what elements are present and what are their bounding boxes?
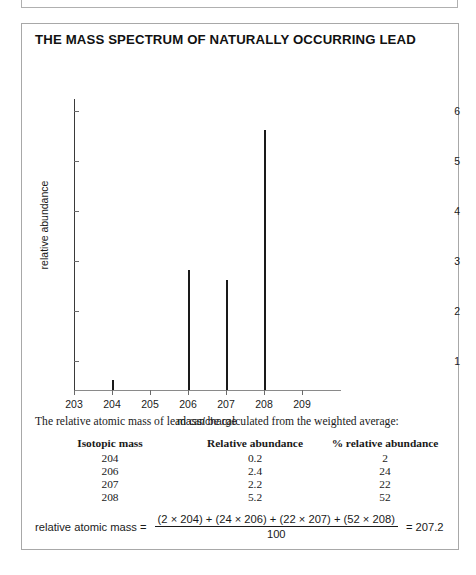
- x-tick-label-207: 207: [206, 398, 246, 410]
- x-axis-line: [74, 390, 341, 391]
- intro-paragraph: The relative atomic mass of lead can be …: [35, 415, 447, 428]
- peak-207: [226, 280, 228, 390]
- cell-percent-relative-abundance: 2: [325, 451, 445, 464]
- y-tick-label-1: 1: [434, 355, 460, 367]
- peak-204: [112, 380, 114, 390]
- y-tick-label-6: 6: [434, 105, 460, 117]
- y-tick-label-2: 2: [434, 305, 460, 317]
- formula-fraction: (2 × 204) + (24 × 206) + (22 × 207) + (5…: [155, 513, 398, 540]
- x-tick-label-206: 206: [168, 398, 208, 410]
- cell-relative-abundance: 0.2: [185, 451, 325, 464]
- y-tick-3: [74, 261, 79, 262]
- peak-208: [264, 130, 266, 390]
- y-axis-line: [74, 99, 75, 391]
- cell-isotopic-mass: 207: [35, 477, 185, 490]
- peak-206: [188, 270, 190, 390]
- x-tick-205: [150, 390, 151, 395]
- x-tick-label-208: 208: [244, 398, 284, 410]
- y-tick-label-5: 5: [434, 155, 460, 167]
- mass-spectrum-chart: 6 5 4 3 2 1 203 204 205 206 207 208 209 …: [22, 69, 460, 429]
- table-row: 208 5.2 52: [35, 490, 445, 503]
- formula-label: relative atomic mass =: [35, 521, 147, 533]
- cell-relative-abundance: 2.4: [185, 464, 325, 477]
- x-tick-label-209: 209: [282, 398, 322, 410]
- formula-result: = 207.2: [406, 521, 444, 533]
- cell-relative-abundance: 5.2: [185, 490, 325, 503]
- x-tick-208: [264, 390, 265, 395]
- x-tick-203: [74, 390, 75, 395]
- abundance-table: Isotopic mass Relative abundance % relat…: [35, 436, 445, 503]
- x-tick-209: [302, 390, 303, 395]
- relative-atomic-mass-formula: relative atomic mass = (2 × 204) + (24 ×…: [35, 513, 444, 540]
- x-tick-207: [226, 390, 227, 395]
- y-tick-2: [74, 311, 79, 312]
- x-tick-label-203: 203: [54, 398, 94, 410]
- y-tick-6: [74, 111, 79, 112]
- cell-relative-abundance: 2.2: [185, 477, 325, 490]
- cell-percent-relative-abundance: 52: [325, 490, 445, 503]
- cell-isotopic-mass: 206: [35, 464, 185, 477]
- y-tick-1: [74, 361, 79, 362]
- x-tick-204: [112, 390, 113, 395]
- cut-off-box-above: [21, 0, 458, 8]
- table-row: 206 2.4 24: [35, 464, 445, 477]
- cell-isotopic-mass: 208: [35, 490, 185, 503]
- column-header-relative-abundance: Relative abundance: [185, 436, 325, 451]
- lead-mass-spectrum-card: THE MASS SPECTRUM OF NATURALLY OCCURRING…: [21, 23, 459, 550]
- formula-numerator: (2 × 204) + (24 × 206) + (22 × 207) + (5…: [155, 513, 398, 526]
- y-tick-4: [74, 211, 79, 212]
- y-axis-label: relative abundance: [38, 165, 50, 285]
- y-tick-5: [74, 161, 79, 162]
- column-header-percent-relative-abundance: % relative abundance: [325, 436, 445, 451]
- cell-percent-relative-abundance: 22: [325, 477, 445, 490]
- cell-isotopic-mass: 204: [35, 451, 185, 464]
- table-row: 204 0.2 2: [35, 451, 445, 464]
- x-tick-label-205: 205: [130, 398, 170, 410]
- page-title: THE MASS SPECTRUM OF NATURALLY OCCURRING…: [35, 32, 416, 47]
- x-tick-206: [188, 390, 189, 395]
- cell-percent-relative-abundance: 24: [325, 464, 445, 477]
- table-header-row: Isotopic mass Relative abundance % relat…: [35, 436, 445, 451]
- y-tick-label-3: 3: [434, 255, 460, 267]
- formula-denominator: 100: [264, 527, 289, 540]
- y-tick-label-4: 4: [434, 205, 460, 217]
- column-header-isotopic-mass: Isotopic mass: [35, 436, 185, 451]
- x-tick-label-204: 204: [92, 398, 132, 410]
- table-row: 207 2.2 22: [35, 477, 445, 490]
